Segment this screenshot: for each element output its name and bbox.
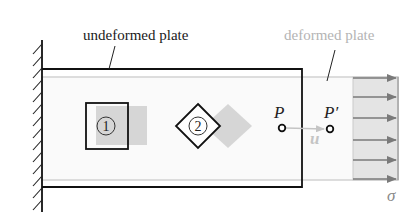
fixed-wall	[33, 40, 42, 212]
stress-distribution: σ	[353, 77, 398, 205]
stress-symbol: σ	[387, 186, 396, 205]
element-1-number: 1	[103, 119, 110, 134]
wall-hatching	[33, 44, 42, 210]
displacement-label: u	[310, 129, 319, 148]
point-p-icon	[279, 125, 286, 132]
element-2-number: 2	[195, 119, 202, 134]
point-p-prime-label: P′	[323, 103, 338, 122]
deformed-label-group: deformed plate	[284, 27, 375, 81]
point-p-prime-icon	[327, 126, 334, 133]
deformed-plate-label: deformed plate	[284, 27, 375, 43]
undeformed-leader-line	[109, 46, 115, 69]
plate-deformation-diagram: σ 1	[0, 0, 415, 217]
point-p-label: P	[273, 103, 284, 122]
undeformed-plate-label: undeformed plate	[83, 27, 189, 43]
undeformed-label-group: undeformed plate	[83, 27, 189, 69]
